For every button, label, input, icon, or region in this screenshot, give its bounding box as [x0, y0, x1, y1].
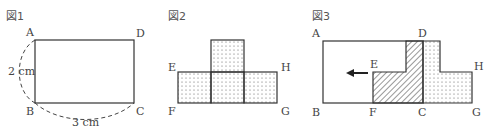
label-f: F: [369, 106, 377, 119]
rectangle-abcd: [35, 40, 134, 103]
label-g: G: [281, 105, 290, 118]
figure-1: 図1 A D B C 2 cm 3 cm: [6, 10, 145, 129]
label-b: B: [312, 106, 320, 119]
top-square: [211, 40, 244, 72]
label-e: E: [370, 58, 378, 71]
hatched-overlap-region: [373, 41, 423, 103]
label-c: C: [136, 105, 144, 118]
diagram-canvas: 図1 A D B C 2 cm 3 cm 図2 E H F G 図3 A: [0, 0, 485, 130]
label-h: H: [281, 61, 291, 74]
label-b: B: [26, 105, 34, 118]
height-dimension: 2 cm: [8, 65, 36, 78]
width-dimension: 3 cm: [72, 116, 100, 129]
figure-2: 図2 E H F G: [168, 10, 291, 118]
left-arrow-icon: [346, 69, 354, 77]
figure-3: 図3 A D E H B F C G: [311, 10, 484, 119]
label-d: D: [136, 27, 145, 40]
figure-1-title: 図1: [6, 10, 24, 23]
label-a: A: [25, 26, 35, 39]
figure-3-title: 図3: [312, 10, 330, 23]
label-d: D: [418, 27, 427, 40]
label-e: E: [168, 61, 176, 74]
label-f: F: [168, 105, 176, 118]
label-g: G: [472, 106, 481, 119]
middle-square: [211, 72, 244, 103]
figure-2-title: 図2: [168, 10, 186, 23]
label-c: C: [418, 106, 426, 119]
left-square: [178, 72, 211, 103]
label-a: A: [311, 27, 321, 40]
right-square: [244, 72, 277, 103]
label-h: H: [474, 60, 484, 73]
